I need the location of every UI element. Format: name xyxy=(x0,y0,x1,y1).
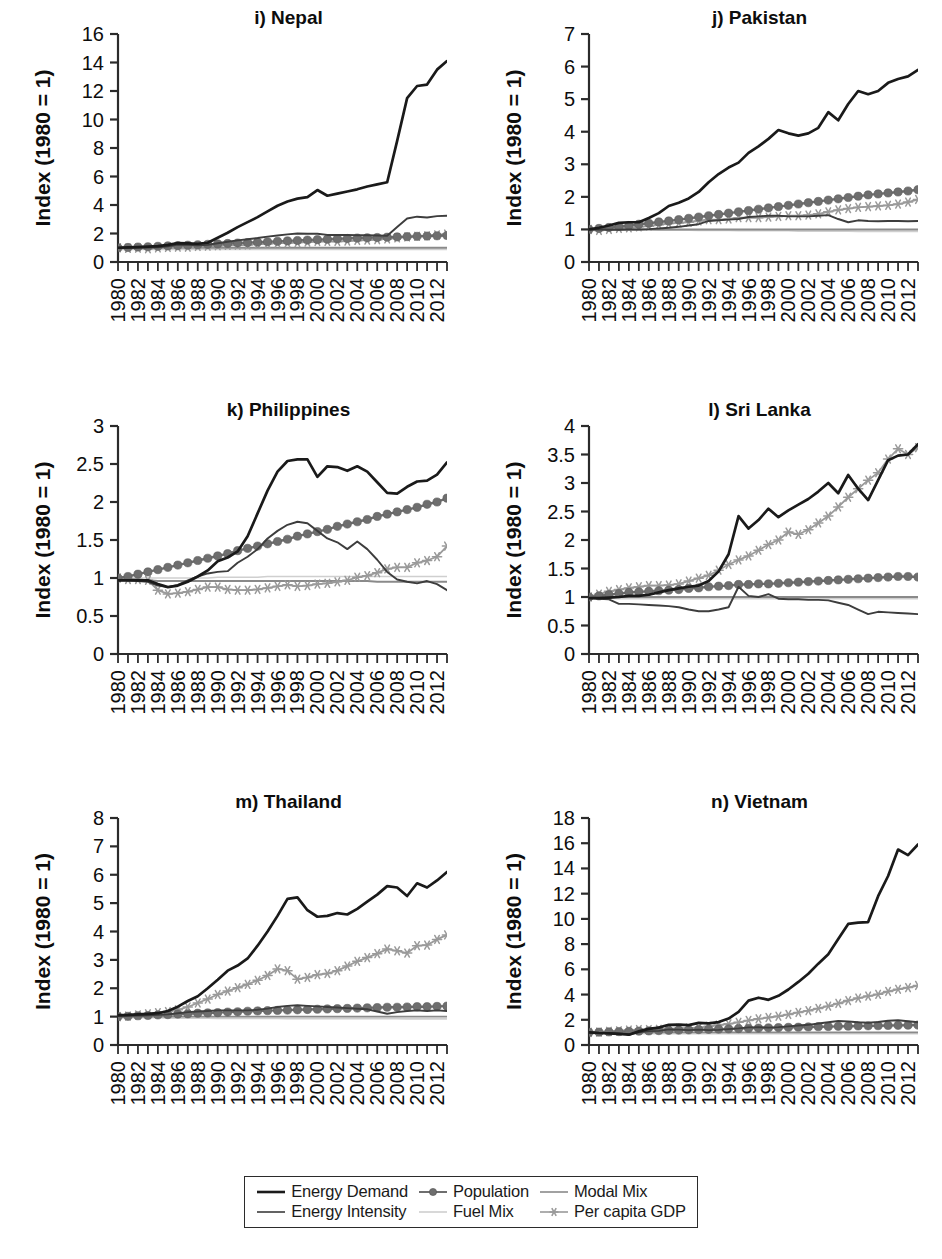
x-tick-label: 2004 xyxy=(346,670,368,715)
x-tick-label: 2006 xyxy=(837,1061,859,1106)
x-tick-label: 2010 xyxy=(877,278,899,323)
legend-item-per-capita-gdp[interactable]: Per capita GDP xyxy=(539,1202,686,1221)
x-tick-label: 1992 xyxy=(227,670,249,715)
legend-item-modal-mix[interactable]: Modal Mix xyxy=(539,1182,686,1201)
x-tick-label: 1992 xyxy=(227,278,249,323)
x-tick-label: 1996 xyxy=(738,278,760,323)
panel-title: n) Vietnam xyxy=(711,791,808,812)
x-tick-label: 1980 xyxy=(578,278,600,323)
x-tick-label: 1994 xyxy=(718,278,740,323)
x-tick-label: 2012 xyxy=(897,670,919,715)
x-tick-label: 1984 xyxy=(147,278,169,323)
series-marker-per-capita-gdp xyxy=(273,582,282,590)
y-tick-label: 18 xyxy=(553,807,575,829)
series-marker-population xyxy=(174,561,182,569)
legend-label: Fuel Mix xyxy=(453,1202,514,1221)
series-marker-population xyxy=(283,535,291,543)
legend-item-energy-intensity[interactable]: Energy Intensity xyxy=(256,1202,408,1221)
legend-label: Per capita GDP xyxy=(574,1202,686,1221)
series-marker-per-capita-gdp xyxy=(834,999,843,1007)
x-tick-label: 1998 xyxy=(286,278,308,323)
y-tick-label: 0 xyxy=(93,1034,104,1056)
series-marker-population xyxy=(814,197,822,205)
series-marker-population xyxy=(685,214,693,222)
y-axis-title: Index (1980 = 1) xyxy=(31,462,54,619)
series-marker-population xyxy=(323,235,331,243)
x-tick-label: 2002 xyxy=(326,1061,348,1106)
panel-title: m) Thailand xyxy=(235,791,342,812)
x-tick-label: 1990 xyxy=(207,278,229,323)
series-marker-population xyxy=(804,578,812,586)
y-tick-label: 3 xyxy=(93,949,104,971)
legend-item-population[interactable]: Population xyxy=(418,1182,529,1201)
y-tick-label: 5 xyxy=(564,88,575,110)
series-marker-population xyxy=(144,568,152,576)
y-tick-label: 2.5 xyxy=(76,453,104,475)
x-tick-label: 1982 xyxy=(127,670,149,715)
series-marker-per-capita-gdp xyxy=(393,563,402,571)
series-marker-per-capita-gdp xyxy=(333,578,342,586)
x-tick-label: 2002 xyxy=(797,278,819,323)
series-marker-per-capita-gdp xyxy=(804,211,813,219)
series-marker-per-capita-gdp xyxy=(684,577,693,585)
series-marker-population xyxy=(433,232,441,240)
y-tick-label: 5 xyxy=(93,892,104,914)
series-marker-population xyxy=(363,515,371,523)
x-tick-label: 1998 xyxy=(757,278,779,323)
series-marker-population xyxy=(884,573,892,581)
legend-item-fuel-mix[interactable]: Fuel Mix xyxy=(418,1202,529,1221)
x-tick-label: 2012 xyxy=(897,278,919,323)
series-marker-per-capita-gdp xyxy=(893,985,902,993)
series-marker-population xyxy=(273,237,281,245)
legend-label: Population xyxy=(453,1182,529,1201)
x-tick-label: 1982 xyxy=(127,1061,149,1106)
series-marker-per-capita-gdp xyxy=(834,206,843,214)
series-marker-population xyxy=(293,532,301,540)
x-tick-label: 1992 xyxy=(698,670,720,715)
x-tick-label: 2012 xyxy=(426,1061,448,1106)
x-tick-label: 2004 xyxy=(817,670,839,715)
x-tick-label: 1990 xyxy=(207,1061,229,1106)
series-marker-per-capita-gdp xyxy=(754,1015,763,1023)
x-tick-label: 2004 xyxy=(346,1061,368,1106)
series-marker-per-capita-gdp xyxy=(784,1011,793,1019)
x-tick-label: 1992 xyxy=(227,1061,249,1106)
series-marker-per-capita-gdp xyxy=(223,987,232,995)
series-marker-per-capita-gdp xyxy=(883,201,892,209)
y-axis-title: Index (1980 = 1) xyxy=(31,853,54,1010)
x-tick-label: 1988 xyxy=(658,670,680,715)
series-marker-per-capita-gdp xyxy=(173,589,182,597)
series-marker-population xyxy=(383,1003,391,1011)
series-marker-population xyxy=(194,556,202,564)
y-tick-label: 8 xyxy=(93,807,104,829)
panel-title: j) Pakistan xyxy=(711,7,807,28)
series-marker-per-capita-gdp xyxy=(193,585,202,593)
series-marker-per-capita-gdp xyxy=(283,581,292,589)
x-tick-label: 1988 xyxy=(658,278,680,323)
x-tick-label: 2012 xyxy=(897,1061,919,1106)
series-marker-per-capita-gdp xyxy=(814,1004,823,1012)
x-tick-label: 2000 xyxy=(777,1061,799,1106)
series-marker-population xyxy=(333,1005,341,1013)
series-marker-population xyxy=(715,582,723,590)
plot-area xyxy=(584,444,922,614)
series-marker-population xyxy=(443,1002,451,1010)
y-tick-label: 1.5 xyxy=(547,558,575,580)
series-marker-population xyxy=(814,577,822,585)
legend-item-energy-demand[interactable]: Energy Demand xyxy=(256,1182,408,1201)
series-marker-population xyxy=(754,580,762,588)
series-marker-per-capita-gdp xyxy=(263,584,272,592)
x-tick-label: 2008 xyxy=(386,1061,408,1106)
x-tick-label: 2010 xyxy=(877,1061,899,1106)
series-marker-per-capita-gdp xyxy=(764,213,773,221)
series-marker-population xyxy=(904,572,912,580)
legend-swatch-line-icon xyxy=(256,1205,286,1219)
series-marker-population xyxy=(204,554,212,562)
series-marker-per-capita-gdp xyxy=(794,530,803,538)
x-tick-label: 2010 xyxy=(877,670,899,715)
series-marker-population xyxy=(784,579,792,587)
series-marker-per-capita-gdp xyxy=(313,971,322,979)
x-tick-label: 1982 xyxy=(598,278,620,323)
plot-area xyxy=(113,459,451,598)
series-marker-population xyxy=(844,575,852,583)
